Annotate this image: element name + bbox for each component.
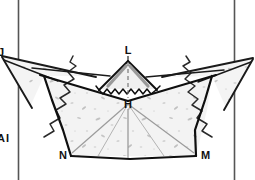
base-edge — [71, 156, 196, 159]
zigzag-hook-left — [96, 86, 99, 90]
cross-section-diagram: L H N M J A I — [0, 0, 255, 180]
figure-root: L H N M J A I — [0, 0, 255, 180]
zigzag-hook-right — [156, 86, 160, 90]
label-center-h: H — [124, 98, 132, 110]
label-bottom-right-m: M — [201, 149, 210, 161]
label-edge-lower-left-a: A — [0, 132, 5, 144]
label-apex-l: L — [125, 44, 132, 56]
label-edge-top-left-j: J — [0, 46, 4, 58]
label-edge-lower-left-i: I — [6, 132, 9, 144]
label-bottom-left-n: N — [59, 149, 67, 161]
